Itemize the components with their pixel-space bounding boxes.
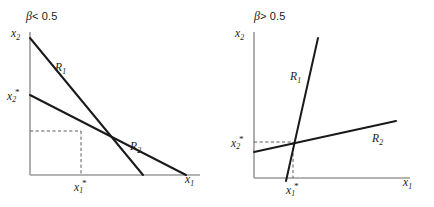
right-condition-relation: > 0.5 [260,10,285,22]
right-x-tick-label-x1-star: x1* [286,182,300,196]
right-y-axis-label-sub: 2 [240,33,244,42]
left-x-axis-label: x1 [185,174,194,186]
left-x-tick-label-x1-star: x1* [74,179,88,193]
right-r2-sub: 2 [379,138,383,147]
right-y-axis-label: x2 [235,28,244,40]
right-panel-plot [217,0,434,207]
left-y-axis-label-sub: 2 [16,33,20,42]
right-y-tick-star: * [239,134,244,144]
left-x-tick-star: * [82,178,87,188]
panel-beta-greater-than-half: β> 0.5 x2 x1 x2* x1* R1 R2 [217,0,434,207]
left-condition-label: β< 0.5 [26,10,57,22]
right-x-axis-label-sub: 1 [408,182,412,191]
left-curve-label-r2: R2 [130,141,141,153]
left-y-axis-label: x2 [11,28,20,40]
right-condition-label: β> 0.5 [254,10,285,22]
left-curve-label-r1: R1 [55,62,66,74]
left-y-tick-label-x2-star: x2* [7,88,21,102]
figure-root: β< 0.5 x2 x1 x2* x1* R1 R2 [0,0,434,207]
panel-beta-less-than-half: β< 0.5 x2 x1 x2* x1* R1 R2 [0,0,217,207]
left-r1-sub: 1 [62,67,66,76]
left-curve-r2 [30,95,186,175]
left-condition-relation: < 0.5 [32,10,57,22]
right-r2-base: R [372,132,379,144]
right-curve-label-r2: R2 [372,133,383,145]
left-curve-r1 [30,38,143,175]
left-x-axis-label-sub: 1 [190,179,194,188]
right-r1-base: R [290,70,297,82]
left-r1-base: R [55,61,62,73]
right-curve-r1 [286,38,318,181]
right-r1-sub: 1 [297,76,301,85]
right-curve-label-r1: R1 [290,71,301,83]
right-x-axis-label: x1 [403,177,412,189]
left-y-tick-star: * [15,87,20,97]
left-r2-base: R [130,140,137,152]
right-y-tick-label-x2-star: x2* [231,135,245,149]
left-r2-sub: 2 [137,146,141,155]
right-x-tick-star: * [294,181,299,191]
